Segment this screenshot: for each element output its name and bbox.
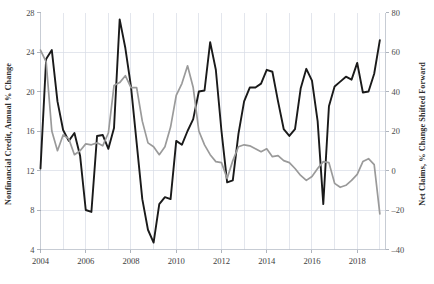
x-tick-label: 2004 [32, 256, 50, 266]
left-tick-label: 12 [26, 167, 34, 176]
x-tick-label: 2016 [303, 256, 321, 266]
x-tick-label: 2014 [258, 256, 276, 266]
left-tick-label: 20 [26, 88, 34, 97]
left-axis-title: Nonfinancial Credit, Annual % Change [4, 63, 13, 205]
x-tick-label: 2012 [213, 256, 230, 266]
right-tick-label: –40 [391, 246, 405, 255]
left-tick-label: 8 [30, 206, 34, 215]
left-tick-label: 24 [26, 48, 35, 57]
right-tick-label: 20 [392, 127, 400, 136]
chart-container: 481216202428 –40–20020406080 20042006200… [0, 0, 434, 284]
line-chart: 481216202428 –40–20020406080 20042006200… [0, 0, 434, 284]
x-tick-label: 2010 [168, 256, 185, 266]
right-tick-label: 0 [392, 167, 396, 176]
right-tick-label: 80 [392, 9, 400, 18]
right-tick-label: 60 [392, 48, 400, 57]
right-axis-title: Net Claims, % Change Shifted Forward [418, 62, 427, 206]
left-tick-label: 28 [26, 9, 34, 18]
right-tick-label: 40 [392, 88, 400, 97]
x-tick-label: 2006 [77, 256, 95, 266]
right-tick-label: –20 [391, 206, 405, 215]
x-tick-label: 2008 [122, 256, 139, 266]
x-tick-label: 2018 [349, 256, 366, 266]
left-tick-label: 16 [26, 127, 34, 136]
plot-background [0, 0, 434, 284]
